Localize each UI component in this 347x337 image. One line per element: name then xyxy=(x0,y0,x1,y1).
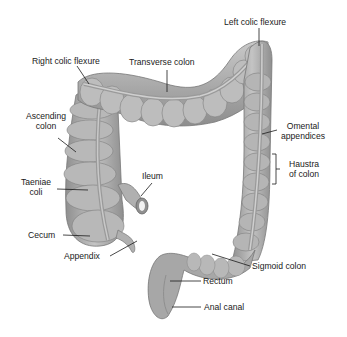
label-right-colic-flexure: Right colic flexure xyxy=(32,56,100,66)
large-intestine-diagram: Left colic flexure Right colic flexure T… xyxy=(0,0,347,337)
appendix xyxy=(116,230,135,253)
label-taeniae-coli: Taeniae coli xyxy=(16,177,56,197)
label-haustra-of-colon: Haustra of colon xyxy=(282,159,326,179)
label-ileum: Ileum xyxy=(142,171,163,181)
label-transverse-colon: Transverse colon xyxy=(129,57,195,67)
label-sigmoid-colon: Sigmoid colon xyxy=(252,261,306,271)
label-left-colic-flexure: Left colic flexure xyxy=(224,17,286,27)
label-omental-appendices: Omental appendices xyxy=(276,121,330,141)
label-ascending-colon: Ascending colon xyxy=(20,111,72,131)
label-cecum: Cecum xyxy=(28,230,55,240)
label-rectum: Rectum xyxy=(203,276,233,286)
label-anal-canal: Anal canal xyxy=(204,302,244,312)
label-appendix: Appendix xyxy=(64,251,100,261)
